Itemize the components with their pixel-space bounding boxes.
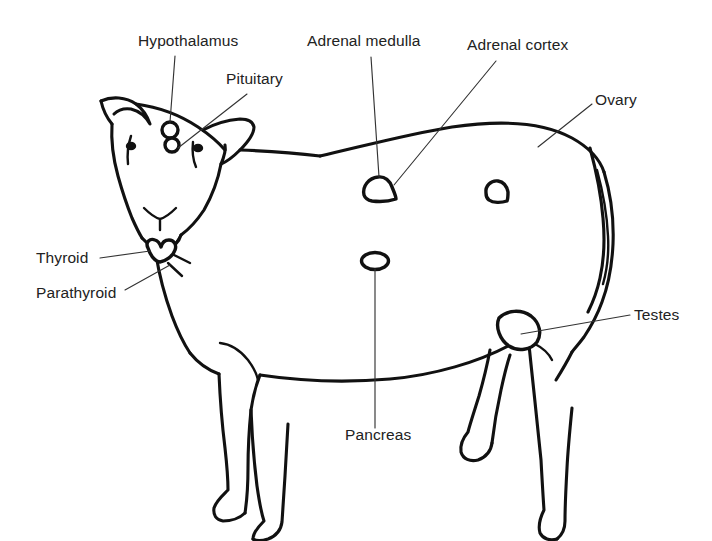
leader-thyroid xyxy=(100,251,150,258)
hypothalamus-gland xyxy=(162,122,178,138)
rear-underline xyxy=(556,352,572,380)
label-pancreas: Pancreas xyxy=(345,426,411,443)
label-hypothalamus: Hypothalamus xyxy=(138,32,238,49)
shoulder-crease xyxy=(220,343,258,380)
chest-outline xyxy=(190,353,219,374)
hind-leg-near-back xyxy=(557,408,572,539)
front-leg-near-outline xyxy=(251,375,264,539)
left-eye xyxy=(126,142,136,151)
right-ear-outline xyxy=(203,119,254,164)
leader-ovary xyxy=(538,104,592,147)
label-testes: Testes xyxy=(634,306,680,323)
leader-adrenal-medulla xyxy=(371,57,379,177)
label-thyroid: Thyroid xyxy=(36,249,88,266)
pancreas-gland xyxy=(362,253,389,270)
back-outline xyxy=(320,123,604,172)
testes-gland xyxy=(498,311,540,349)
front-leg-far-back xyxy=(245,410,251,513)
hind-leg-far-back xyxy=(492,355,510,443)
label-adrenal-cortex: Adrenal cortex xyxy=(467,36,568,53)
adrenal-medulla-gland xyxy=(364,177,396,202)
label-ovary: Ovary xyxy=(595,91,637,108)
thyroid-gland xyxy=(147,239,176,262)
endocrine-diagram: Hypothalamus Pituitary Adrenal medulla A… xyxy=(0,0,712,541)
front-leg-near-hoof xyxy=(253,424,288,541)
right-eye xyxy=(193,144,203,153)
label-parathyroid: Parathyroid xyxy=(36,284,116,301)
label-adrenal-medulla: Adrenal medulla xyxy=(307,32,421,49)
label-pituitary: Pituitary xyxy=(226,70,283,87)
hind-leg-far-outline xyxy=(461,350,492,461)
belly-outline xyxy=(260,345,510,381)
pituitary-gland xyxy=(165,138,179,152)
parathyroid-projection-upper xyxy=(174,255,190,263)
throat-outline xyxy=(155,248,190,353)
nose-shape xyxy=(144,208,176,230)
neck-top-outline xyxy=(240,150,320,156)
tail-outline xyxy=(588,148,604,312)
leader-lines-group xyxy=(100,56,630,428)
hind-leg-near-outline xyxy=(529,345,557,540)
front-leg-far-outline xyxy=(214,374,245,521)
face-right-outline xyxy=(181,164,221,235)
diagram-canvas: Hypothalamus Pituitary Adrenal medulla A… xyxy=(0,0,712,541)
organs-group xyxy=(147,122,540,349)
face-left-outline xyxy=(112,124,142,238)
adrenal-cortex-gland xyxy=(486,181,508,203)
